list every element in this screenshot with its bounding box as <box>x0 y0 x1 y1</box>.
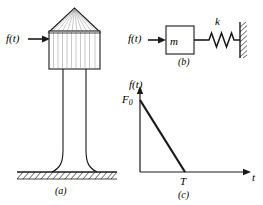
figure-container: f(t) (a) f(t) m k (b) f(t) F0 T t (c) <box>0 0 263 205</box>
plot-f0-main: F <box>122 93 129 105</box>
mass-spring-group <box>148 22 247 58</box>
force-time-plot <box>137 86 251 175</box>
caption-panel-b: (b) <box>178 57 190 67</box>
force-label-tower: f(t) <box>6 33 19 44</box>
force-arrow-tower <box>28 36 50 43</box>
spring-element <box>206 33 240 47</box>
plot-data-line <box>140 100 185 172</box>
plot-t-tick-label: T <box>180 176 186 187</box>
ground-support-tower <box>17 172 117 179</box>
plot-x-axis-label: t <box>252 172 255 183</box>
caption-panel-a: (a) <box>55 186 67 196</box>
fixed-wall-support <box>240 22 247 58</box>
force-label-mass: f(t) <box>128 33 141 44</box>
plot-f0-label: F0 <box>122 94 133 107</box>
plot-y-axis <box>137 86 143 172</box>
spring-stiffness-label: k <box>215 16 220 27</box>
plot-y-axis-label: f(t) <box>129 79 142 90</box>
mass-label: m <box>170 36 178 47</box>
caption-panel-c: (c) <box>178 190 189 200</box>
water-tower-group <box>17 8 117 179</box>
tower-roof <box>49 8 100 32</box>
tower-column <box>52 69 97 172</box>
plot-x-axis <box>140 169 251 175</box>
plot-f0-subscript: 0 <box>129 98 133 107</box>
tower-tank <box>49 31 100 69</box>
force-arrow-mass <box>148 37 166 44</box>
